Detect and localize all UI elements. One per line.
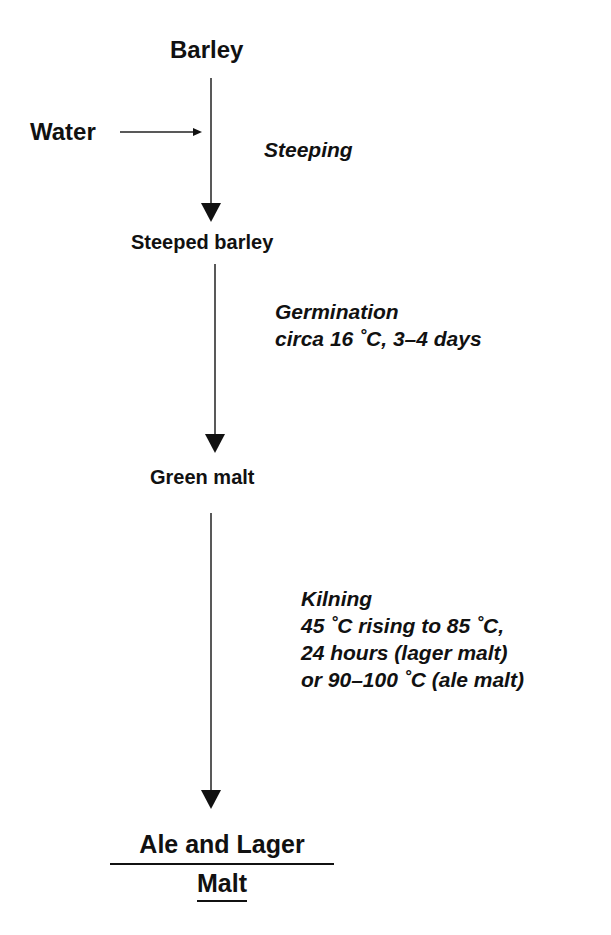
node-green-malt: Green malt — [150, 466, 254, 489]
final-line-2: Malt — [197, 869, 247, 902]
node-steeped-barley: Steeped barley — [131, 231, 273, 254]
node-final-malt: Ale and Lager Malt — [110, 830, 334, 898]
step-kilning: Kilning 45 ˚C rising to 85 ˚C, 24 hours … — [301, 585, 524, 693]
arrowhead-right-icon — [193, 128, 202, 136]
arrowhead-down-icon — [205, 434, 225, 453]
node-water: Water — [30, 118, 96, 146]
step-germination: Germination circa 16 ˚C, 3–4 days — [275, 298, 482, 352]
final-line-1: Ale and Lager — [139, 830, 304, 858]
arrowhead-down-icon — [201, 790, 221, 809]
step-steeping: Steeping — [264, 136, 353, 163]
arrowhead-down-icon — [201, 203, 221, 222]
node-barley: Barley — [170, 36, 243, 64]
